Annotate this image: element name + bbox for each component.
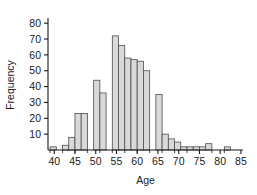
y-axis-tick-label: 70 (29, 33, 41, 45)
histogram-bar (69, 137, 75, 150)
x-axis-tick-label: 50 (90, 155, 102, 167)
x-axis-tick-label: 55 (111, 155, 123, 167)
histogram-bar (131, 60, 137, 150)
x-axis-tick-label: 85 (235, 155, 247, 167)
y-axis-tick-label: 10 (29, 128, 41, 140)
x-axis-tick-label: 70 (173, 155, 185, 167)
histogram-bar (168, 139, 174, 150)
x-axis-title: Age (136, 174, 155, 186)
histogram-bar (100, 93, 106, 150)
histogram-bar (75, 114, 81, 150)
x-axis-tick-label: 40 (48, 155, 60, 167)
histogram-bar (175, 142, 181, 150)
histogram-bar (125, 58, 131, 150)
y-axis-tick-label: 20 (29, 112, 41, 124)
x-axis-tick-label: 60 (131, 155, 143, 167)
y-axis-tick-label: 60 (29, 49, 41, 61)
histogram-bar (63, 145, 69, 150)
histogram-bar (156, 95, 162, 150)
histogram-bar (162, 134, 168, 150)
chart-canvas: 102030405060708040455055606570758085AgeF… (0, 0, 257, 195)
y-axis-tick-label: 30 (29, 96, 41, 108)
x-axis-tick-label: 75 (194, 155, 206, 167)
y-axis-tick-label: 50 (29, 64, 41, 76)
y-axis-tick-label: 40 (29, 80, 41, 92)
histogram-bar (143, 71, 149, 150)
histogram-bar (119, 45, 125, 150)
y-axis-tick-label: 80 (29, 17, 41, 29)
histogram-bar (206, 144, 212, 150)
histogram-bar (137, 61, 143, 150)
y-axis-title: Frequency (4, 59, 16, 109)
histogram-bar (94, 80, 100, 150)
x-axis-tick-label: 80 (214, 155, 226, 167)
histogram-bar (81, 114, 87, 150)
histogram-chart: 102030405060708040455055606570758085AgeF… (0, 0, 257, 195)
histogram-bar (112, 36, 118, 150)
x-axis-tick-label: 45 (69, 155, 81, 167)
x-axis-tick-label: 65 (152, 155, 164, 167)
